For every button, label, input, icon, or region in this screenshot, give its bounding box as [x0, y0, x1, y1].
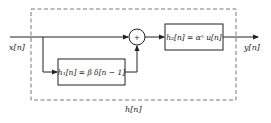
h2-label: h₂[n] = αⁿ u[n] [166, 33, 222, 42]
output-label: y[n] [243, 43, 261, 52]
block-diagram: h₁[n] = β δ[n − 1] + h₂[n] = αⁿ u[n] x[n… [0, 0, 271, 123]
h1-label: h₁[n] = β δ[n − 1] [58, 68, 125, 77]
system-label: h[n] [125, 105, 142, 114]
input-label: x[n] [9, 43, 26, 52]
branch-line [43, 37, 57, 72]
system-boundary [31, 9, 236, 100]
h1-output-line [125, 46, 137, 72]
summer-symbol: + [134, 34, 140, 42]
